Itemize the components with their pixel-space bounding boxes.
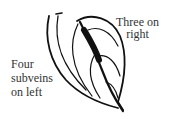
label-right-line-2: right bbox=[116, 28, 159, 40]
label-left-subveins: Four subveins on left bbox=[11, 57, 53, 99]
label-left-line-1: Four bbox=[11, 57, 53, 71]
leaf-midrib-thick bbox=[84, 30, 99, 60]
label-right-subveins: Three on right bbox=[116, 16, 159, 40]
left-subvein-2 bbox=[56, 13, 62, 14]
label-left-line-2: subveins bbox=[11, 71, 53, 85]
label-left-line-3: on left bbox=[11, 85, 53, 99]
